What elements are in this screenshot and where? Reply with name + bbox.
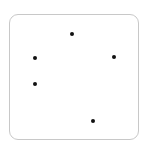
dot-5: [91, 119, 95, 123]
diagram-canvas: [0, 0, 149, 152]
dot-1: [70, 32, 74, 36]
rounded-frame: [9, 14, 139, 140]
dot-2: [33, 56, 37, 60]
dot-4: [33, 82, 37, 86]
dot-3: [112, 55, 116, 59]
